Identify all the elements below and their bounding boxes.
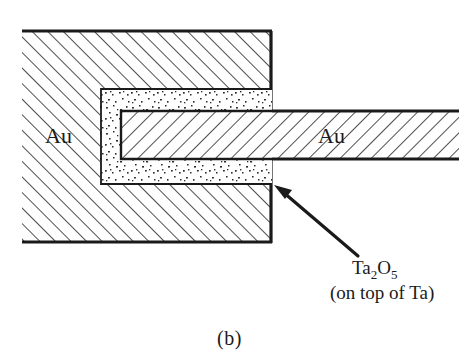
inner-channel-region xyxy=(120,110,272,160)
inner-channel-fill xyxy=(120,110,272,160)
figure-caption: (b) xyxy=(0,327,459,350)
ta2o5-au-cross-section-diagram: Au Au xyxy=(0,0,459,357)
ta2o5-formula-ta: Ta xyxy=(352,257,371,278)
au-arm-region xyxy=(269,110,459,160)
au-arm-label: Au xyxy=(318,123,345,148)
ta2o5-formula-label: Ta2O5 xyxy=(352,258,397,281)
ta2o5-formula-o: O xyxy=(377,257,391,278)
au-arm-fill xyxy=(272,110,459,160)
ta2o5-note-label: (on top of Ta) xyxy=(330,283,434,302)
ta2o5-formula-sub-5: 5 xyxy=(391,267,398,282)
au-substrate-label: Au xyxy=(45,123,72,148)
